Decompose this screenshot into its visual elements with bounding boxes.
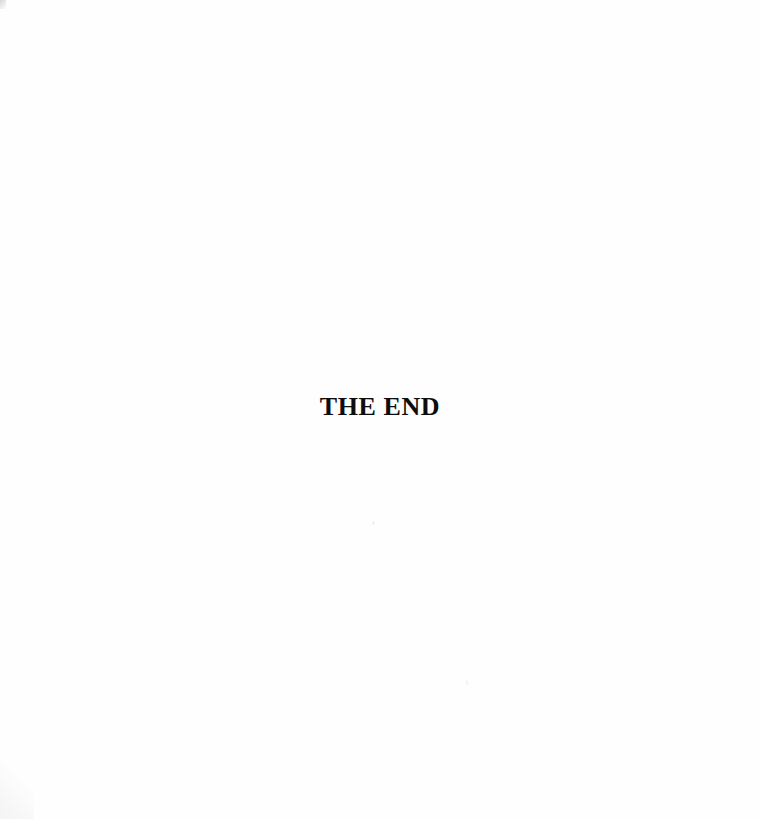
- dust-speck: [466, 680, 468, 685]
- scan-edge-shadow-bottom-left: [0, 759, 34, 819]
- scanned-page: THE END: [0, 0, 760, 819]
- end-mark: THE END: [0, 394, 760, 420]
- end-mark-label: THE END: [320, 394, 441, 420]
- dust-speck: [372, 521, 375, 525]
- scan-edge-shadow-top-left: [0, 0, 6, 9]
